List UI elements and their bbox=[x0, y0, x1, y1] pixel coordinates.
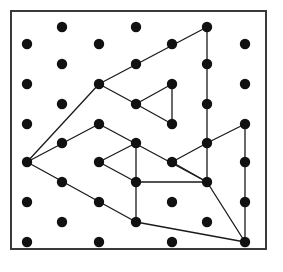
peg-dot-r11-c3 bbox=[240, 237, 250, 247]
peg-dot-r10-c0 bbox=[57, 217, 67, 227]
peg-dot-r11-c0 bbox=[22, 237, 32, 247]
peg-dot-r4-c1 bbox=[131, 99, 141, 109]
board-frame bbox=[11, 11, 266, 249]
peg-dot-r6-c2 bbox=[202, 138, 212, 148]
peg-dot-r2-c1 bbox=[131, 59, 141, 69]
peg-dot-r3-c0 bbox=[22, 79, 32, 89]
peg-dot-r1-c2 bbox=[167, 39, 177, 49]
peg-dot-r7-c1 bbox=[94, 157, 104, 167]
peg-dot-r9-c2 bbox=[167, 197, 177, 207]
peg-dot-r7-c0 bbox=[22, 157, 32, 167]
peg-dot-r9-c0 bbox=[22, 197, 32, 207]
geoboard-figure bbox=[0, 0, 283, 272]
peg-dot-r5-c2 bbox=[167, 119, 177, 129]
peg-dot-r3-c3 bbox=[240, 79, 250, 89]
peg-dot-r3-c1 bbox=[94, 79, 104, 89]
peg-dot-r4-c2 bbox=[202, 99, 212, 109]
peg-dot-r6-c1 bbox=[131, 138, 141, 148]
peg-dot-r9-c3 bbox=[240, 197, 250, 207]
peg-dot-r10-c1 bbox=[131, 217, 141, 227]
peg-dot-r5-c3 bbox=[240, 119, 250, 129]
peg-dot-r7-c3 bbox=[240, 157, 250, 167]
peg-dot-r3-c2 bbox=[167, 79, 177, 89]
peg-dot-r1-c0 bbox=[22, 39, 32, 49]
peg-dot-r8-c2 bbox=[202, 177, 212, 187]
peg-dot-r1-c3 bbox=[240, 39, 250, 49]
peg-dot-r0-c1 bbox=[131, 22, 141, 32]
peg-dot-r2-c0 bbox=[57, 59, 67, 69]
peg-dot-r5-c1 bbox=[94, 119, 104, 129]
peg-dot-r11-c1 bbox=[94, 237, 104, 247]
peg-dot-r1-c1 bbox=[94, 39, 104, 49]
peg-dot-r0-c0 bbox=[57, 22, 67, 32]
peg-dot-r8-c1 bbox=[131, 177, 141, 187]
peg-dot-r6-c0 bbox=[57, 138, 67, 148]
diagram-canvas bbox=[0, 0, 283, 272]
peg-dot-r0-c2 bbox=[202, 22, 212, 32]
peg-dot-r11-c2 bbox=[167, 237, 177, 247]
peg-dot-r2-c2 bbox=[202, 59, 212, 69]
peg-dot-r7-c2 bbox=[167, 157, 177, 167]
peg-dot-r8-c0 bbox=[57, 177, 67, 187]
peg-dot-r5-c0 bbox=[22, 119, 32, 129]
peg-dot-r4-c0 bbox=[57, 99, 67, 109]
peg-dot-r9-c1 bbox=[94, 197, 104, 207]
peg-dot-r10-c2 bbox=[202, 217, 212, 227]
